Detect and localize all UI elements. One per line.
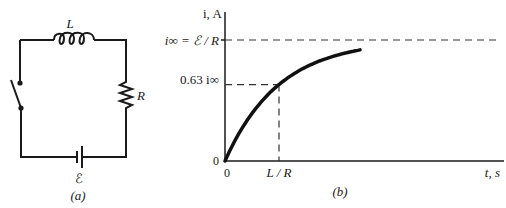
resistor-label: R	[136, 88, 145, 103]
emf-label: ℰ	[75, 171, 83, 186]
origin-x-label: 0	[224, 166, 230, 180]
y-axis-label: i, A	[203, 6, 222, 21]
resistor-icon	[120, 80, 132, 110]
current-graph: i, A i∞ = ℰ / R 0.63 i∞ 0 0 L / R t, s (…	[165, 6, 504, 199]
switch-icon[interactable]	[11, 40, 24, 111]
rl-circuit: L R ℰ (a)	[11, 16, 145, 203]
x-axis-label: t, s	[485, 165, 500, 180]
inductor-icon	[54, 33, 94, 44]
wire-bottom-left	[21, 108, 77, 157]
current-curve	[225, 50, 360, 161]
graph-caption: (b)	[332, 184, 347, 199]
point63-tick-label: 0.63 i∞	[180, 72, 219, 87]
asymptote-tick-label: i∞ = ℰ / R	[165, 33, 219, 48]
origin-y-label: 0	[213, 154, 219, 168]
circuit-caption: (a)	[70, 188, 85, 203]
inductor-label: L	[65, 16, 73, 31]
tau-tick-label: L / R	[265, 165, 291, 180]
wire-right	[82, 110, 126, 157]
figure: L R ℰ (a) i, A i∞ = ℰ / R 0.63 i∞ 0 0 L …	[0, 0, 506, 208]
wire-top-right	[94, 40, 126, 80]
